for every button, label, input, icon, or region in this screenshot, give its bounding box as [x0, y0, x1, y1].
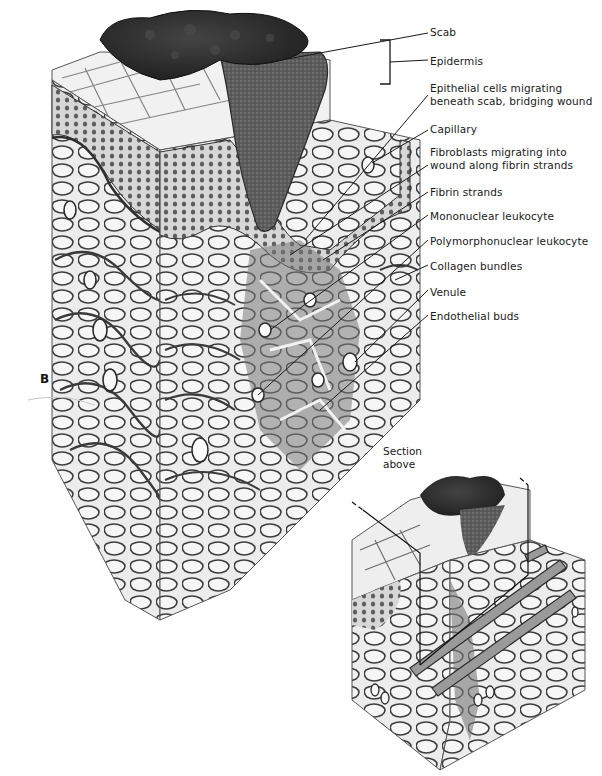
inset-label-line1: Section	[383, 445, 422, 458]
inset-block	[352, 476, 585, 770]
label-scab: Scab	[430, 26, 456, 39]
wound-healing-figure: B Scab Epidermis Epithelial cells migrat…	[0, 0, 602, 776]
label-fibrin-strands: Fibrin strands	[430, 186, 503, 199]
inset-label-line2: above	[383, 458, 415, 471]
label-mononuclear-leukocyte: Mononuclear leukocyte	[430, 210, 554, 223]
panel-letter: B	[40, 372, 49, 386]
label-endothelial-buds: Endothelial buds	[430, 310, 519, 323]
label-epithelial-cells-line1: Epithelial cells migrating	[430, 82, 562, 95]
label-epithelial-cells-line2: beneath scab, bridging wound	[430, 95, 592, 108]
label-collagen-bundles: Collagen bundles	[430, 260, 522, 273]
label-capillary: Capillary	[430, 123, 477, 136]
label-fibroblasts-line2: wound along fibrin strands	[430, 159, 573, 172]
tissue-illustration	[0, 0, 602, 776]
label-fibroblasts-line1: Fibroblasts migrating into	[430, 146, 567, 159]
label-epidermis: Epidermis	[430, 55, 483, 68]
label-venule: Venule	[430, 286, 466, 299]
label-polymorphonuclear-leukocyte: Polymorphonuclear leukocyte	[430, 235, 588, 248]
epidermis-bracket	[380, 40, 390, 84]
